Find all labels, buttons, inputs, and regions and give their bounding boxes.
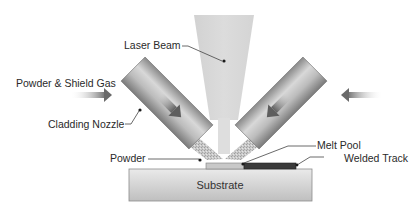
right-inlet-arrow-icon [341, 88, 383, 102]
laser-beam-label: Laser Beam [124, 39, 181, 51]
right-cladding-nozzle [235, 57, 327, 149]
cladding-nozzle-label: Cladding Nozzle [48, 118, 125, 130]
left-cladding-nozzle [121, 57, 213, 149]
welded-track [244, 163, 296, 169]
substrate: Substrate [129, 169, 312, 201]
powder-shield-gas-label: Powder & Shield Gas [16, 77, 116, 89]
powder-label: Powder [110, 152, 146, 164]
melt-pool-label: Melt Pool [317, 139, 361, 151]
welded-track-label: Welded Track [344, 152, 409, 164]
melt-pool [206, 163, 244, 169]
laser-cladding-diagram: Substrate Laser Beam Powder & Shield Gas… [0, 0, 420, 220]
substrate-label: Substrate [196, 179, 243, 191]
left-inlet-arrow-icon [70, 88, 112, 102]
